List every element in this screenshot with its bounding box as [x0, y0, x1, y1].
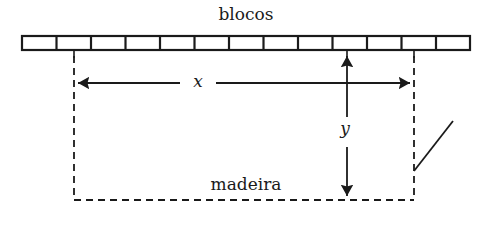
wood-blocks-diagram: blocos x y madeira	[0, 0, 492, 225]
tick-marks	[74, 50, 414, 58]
blocks-title-label: blocos	[0, 6, 492, 23]
leader-diagonal-line	[414, 121, 453, 171]
blocks-bar	[22, 36, 470, 50]
y-dimension-label: y	[330, 120, 360, 137]
blocks-bar-outline	[22, 36, 470, 50]
x-dimension-label: x	[183, 73, 213, 90]
wood-title-label: madeira	[0, 176, 492, 193]
